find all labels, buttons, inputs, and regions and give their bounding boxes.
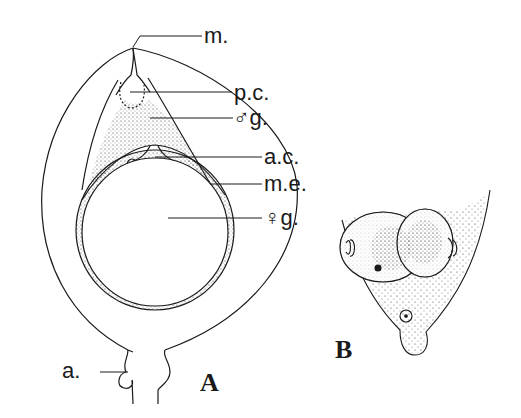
label-attachment: a.: [62, 360, 80, 382]
nucleus-dot: [375, 265, 381, 271]
stalk-outline: [119, 350, 170, 404]
label-pollen-chamber: p.c.: [234, 82, 269, 104]
label-archegonial-chamber: a.c.: [264, 146, 299, 168]
female-gametophyte: [82, 158, 228, 306]
label-male-gametophyte: ♂g.: [233, 107, 268, 129]
figure-b: [340, 190, 490, 355]
ovule-diagram: [0, 0, 521, 418]
label-megaspore-membrane: m.e.: [264, 173, 307, 195]
label-female-gametophyte: ♀g.: [264, 207, 299, 229]
label-micropyle: m.: [204, 25, 228, 47]
panel-label-b: B: [335, 337, 352, 363]
panel-label-a: A: [200, 370, 219, 396]
